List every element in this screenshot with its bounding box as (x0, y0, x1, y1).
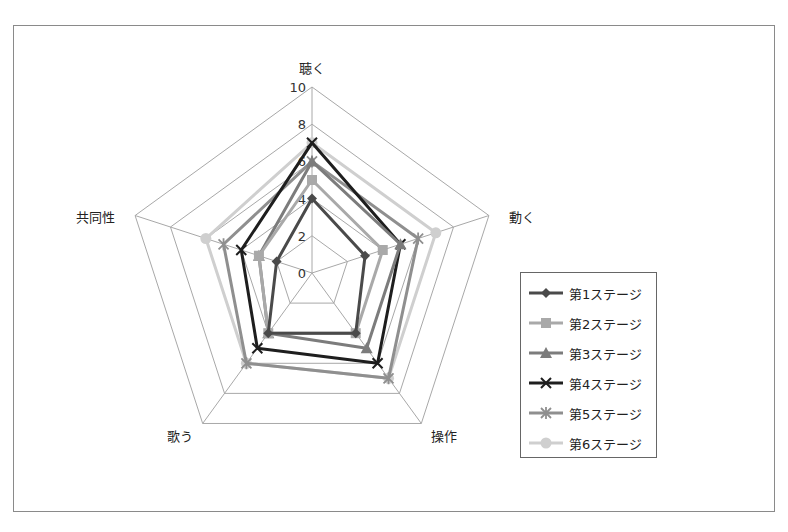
legend-item: 第1ステージ (527, 283, 642, 303)
legend-swatch-icon (527, 343, 565, 363)
square-marker-icon (541, 318, 551, 328)
series-第1ステージ (263, 194, 370, 339)
tick-label: 2 (298, 229, 306, 244)
series-第6ステージ (200, 137, 441, 384)
square-marker-icon (307, 175, 317, 185)
axis-label: 操作 (431, 429, 457, 444)
legend-label: 第3ステージ (569, 344, 642, 363)
circle-marker-icon (541, 438, 552, 449)
legend-label: 第4ステージ (569, 374, 642, 393)
legend-item: 第5ステージ (527, 403, 642, 423)
diamond-marker-icon (541, 288, 551, 298)
legend-item: 第4ステージ (527, 373, 642, 393)
square-marker-icon (254, 251, 264, 261)
square-marker-icon (378, 245, 388, 255)
circle-marker-icon (430, 227, 441, 238)
axis-label: 歌う (167, 429, 193, 444)
legend-label: 第5ステージ (569, 404, 642, 423)
series-line (206, 143, 436, 379)
legend-swatch-icon (527, 283, 565, 303)
star-marker-icon (219, 238, 229, 250)
legend-item: 第6ステージ (527, 433, 642, 453)
star-marker-icon (413, 233, 423, 245)
legend-item: 第3ステージ (527, 343, 642, 363)
axis-label: 共同性 (76, 210, 115, 225)
legend-label: 第1ステージ (569, 284, 642, 303)
legend-label: 第6ステージ (569, 434, 642, 453)
legend-swatch-icon (527, 313, 565, 333)
legend-swatch-icon (527, 403, 565, 423)
axis-label: 聴く (299, 61, 325, 76)
axis-label: 動く (509, 210, 535, 225)
tick-label: 10 (289, 80, 306, 95)
legend-label: 第2ステージ (569, 314, 642, 333)
legend: 第1ステージ第2ステージ第3ステージ第4ステージ第5ステージ第6ステージ (520, 272, 657, 458)
radar-chart: 聴く動く操作歌う共同性 0246810 (0, 0, 788, 532)
data-series (200, 137, 441, 384)
legend-swatch-icon (527, 433, 565, 453)
legend-item: 第2ステージ (527, 313, 642, 333)
tick-label: 8 (298, 117, 306, 132)
tick-label: 0 (298, 266, 306, 281)
circle-marker-icon (200, 233, 211, 244)
legend-swatch-icon (527, 373, 565, 393)
